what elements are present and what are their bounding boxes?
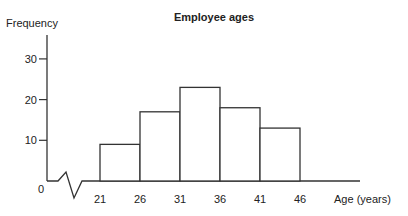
histogram-bar xyxy=(180,87,220,181)
x-tick-label: 46 xyxy=(294,193,306,205)
histogram-bar xyxy=(220,108,260,181)
y-tick-label: 0 xyxy=(38,183,44,195)
x-tick-label: 36 xyxy=(214,193,226,205)
x-tick-label: 31 xyxy=(174,193,186,205)
y-tick-label: 10 xyxy=(25,134,37,146)
x-tick-label: 26 xyxy=(134,193,146,205)
histogram-bar xyxy=(260,128,300,181)
x-axis-label: Age (years) xyxy=(334,193,391,205)
y-tick-label: 30 xyxy=(25,53,37,65)
x-tick-label: 41 xyxy=(254,193,266,205)
y-axis-label: Frequency xyxy=(6,17,58,29)
y-tick-label: 20 xyxy=(25,94,37,106)
histogram-chart: Employee ages Frequency Age (years) 0102… xyxy=(0,0,408,216)
chart-title: Employee ages xyxy=(174,11,254,23)
histogram-bar xyxy=(140,112,180,181)
bars xyxy=(100,87,300,181)
x-tick-label: 21 xyxy=(94,193,106,205)
histogram-bar xyxy=(100,144,140,181)
